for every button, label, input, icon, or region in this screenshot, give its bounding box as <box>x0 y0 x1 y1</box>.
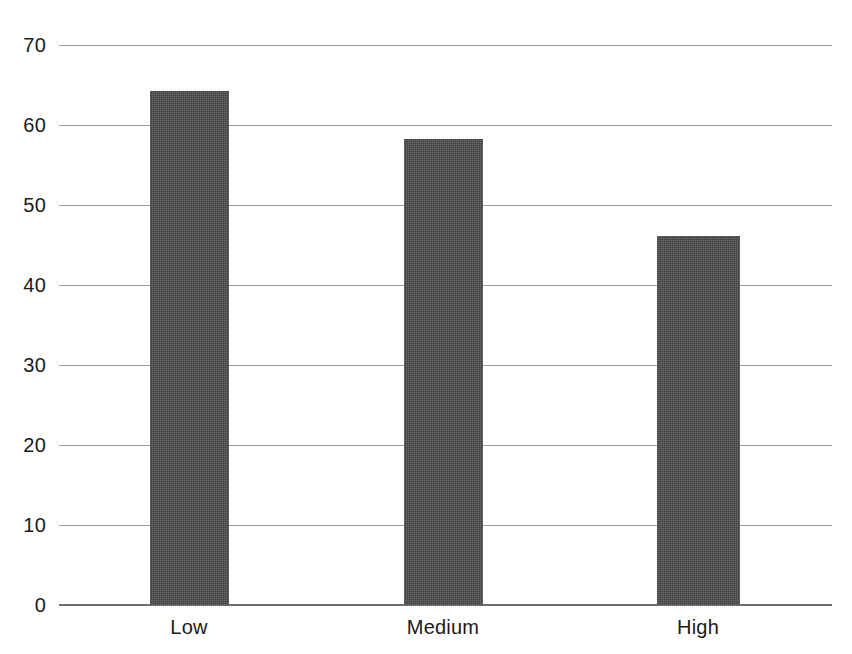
y-axis-tick-label: 70 <box>6 35 46 55</box>
bar-high <box>657 236 740 605</box>
y-axis-tick-label: 50 <box>6 195 46 215</box>
bar-chart: 70 60 50 40 30 20 10 0 Low Medium High <box>0 0 852 654</box>
x-axis-tick-label-medium: Medium <box>343 616 543 638</box>
y-axis-tick-label: 20 <box>6 435 46 455</box>
y-axis-tick-label: 40 <box>6 275 46 295</box>
x-axis-tick-label-high: High <box>598 616 798 638</box>
bar-low <box>150 91 229 605</box>
x-axis-tick-label-low: Low <box>89 616 289 638</box>
gridline-70 <box>59 45 832 46</box>
y-axis-tick-label: 30 <box>6 355 46 375</box>
bar-medium <box>404 139 483 605</box>
y-axis-tick-label: 0 <box>6 595 46 615</box>
y-axis-tick-label: 60 <box>6 115 46 135</box>
y-axis-tick-label: 10 <box>6 515 46 535</box>
plot-area <box>59 45 832 605</box>
